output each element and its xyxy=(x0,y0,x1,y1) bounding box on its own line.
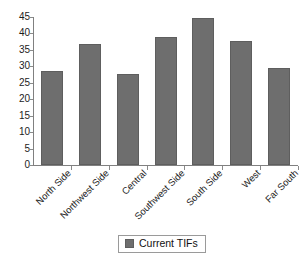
chart-legend: Current TIFs xyxy=(118,235,206,253)
legend-label: Current TIFs xyxy=(139,238,198,249)
legend-swatch-icon xyxy=(125,239,134,248)
bar xyxy=(192,18,214,165)
bar-series-current-tifs xyxy=(0,0,308,180)
bar xyxy=(117,74,139,165)
bar xyxy=(79,44,101,165)
x-axis-category-label: Far South xyxy=(86,168,300,268)
bar xyxy=(230,41,252,165)
bar xyxy=(41,71,63,165)
bar-chart: 051015202530354045 North SideNorthwest S… xyxy=(0,0,308,268)
plot-area: 051015202530354045 xyxy=(0,0,308,180)
bar xyxy=(155,37,177,165)
bar xyxy=(268,68,290,165)
x-axis-category-label: Northwest Side xyxy=(30,168,110,248)
x-axis-category-labels: North SideNorthwest SideCentralSouthwest… xyxy=(0,168,308,224)
